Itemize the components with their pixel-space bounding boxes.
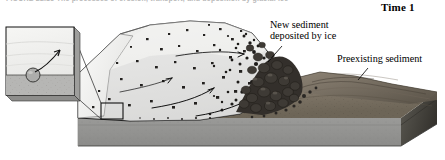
magnified-detail-inset <box>6 27 80 101</box>
time-label: Time 1 <box>381 1 415 13</box>
preexisting-sediment-label: Preexisting sediment <box>337 53 422 64</box>
new-sediment-label: New sediment deposited by ice <box>270 19 336 42</box>
glacier-deposition-illustration <box>0 0 445 160</box>
new-sediment-label-line2: deposited by ice <box>270 30 336 41</box>
figure-container: FIGURE 22.15 The processes of erosion, t… <box>0 0 445 160</box>
new-sediment-label-line1: New sediment <box>270 19 336 30</box>
